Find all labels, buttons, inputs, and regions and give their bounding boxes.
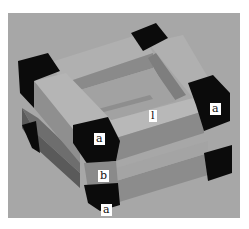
label-b: b (98, 170, 109, 182)
label-l-center: l (149, 110, 157, 122)
diagram-frame: a a l b a (8, 13, 240, 218)
structure-render (8, 13, 240, 218)
label-a-bottom: a (101, 204, 112, 216)
label-a-right: a (210, 103, 221, 115)
label-a-front-top: a (94, 133, 105, 145)
corner-block-lower-right (204, 145, 232, 181)
